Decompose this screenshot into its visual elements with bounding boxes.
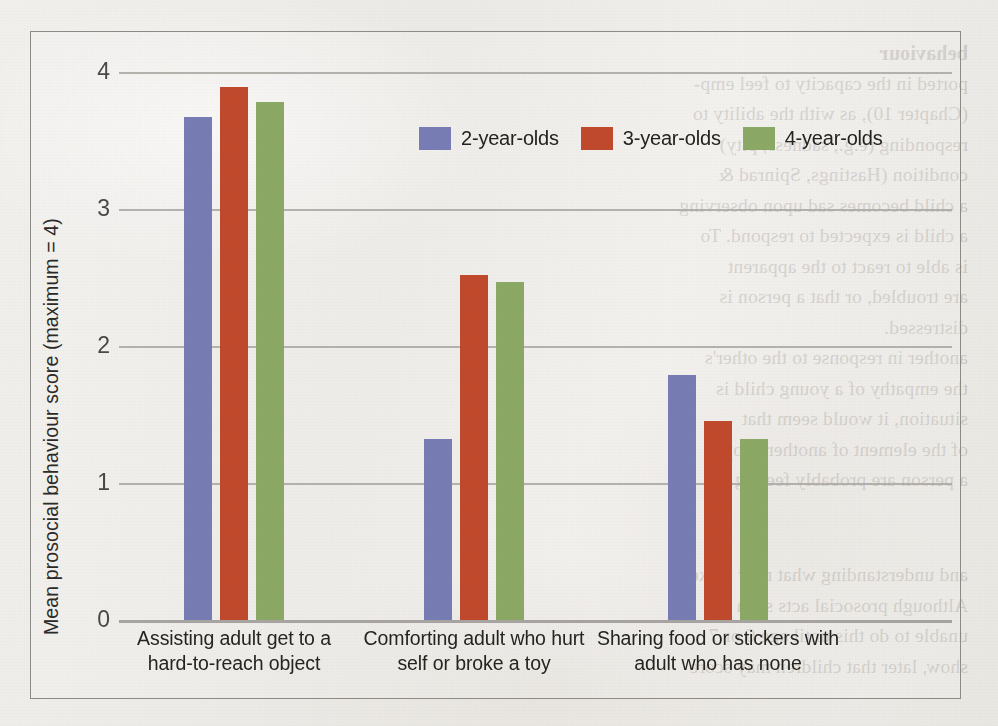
legend-label: 2-year-olds xyxy=(461,127,559,150)
category-label-line: Sharing food or stickers with xyxy=(543,626,893,651)
x-axis-baseline: 0 xyxy=(119,620,952,623)
y-tick-label-1: 1 xyxy=(97,471,110,494)
y-axis-title-wrapper: Mean prosocial behaviour score (maximum … xyxy=(46,535,47,536)
bar-4-year-olds xyxy=(256,102,284,620)
bar-3-year-olds xyxy=(220,87,248,620)
plot-area: 01234Assisting adult get to ahard-to-rea… xyxy=(119,72,952,620)
legend-label: 3-year-olds xyxy=(623,127,721,150)
y-tick-label-3: 3 xyxy=(97,197,110,220)
bar-group xyxy=(184,72,284,620)
bar-3-year-olds xyxy=(460,275,488,620)
legend-label: 4-year-olds xyxy=(785,127,883,150)
bar-group xyxy=(668,72,768,620)
category-label-line: adult who has none xyxy=(543,651,893,676)
bar-3-year-olds xyxy=(704,421,732,620)
x-axis-category-label: Sharing food or stickers withadult who h… xyxy=(543,626,893,676)
bar-group xyxy=(424,72,524,620)
legend-item-4-year-olds: 4-year-olds xyxy=(743,127,883,150)
y-tick-label-2: 2 xyxy=(97,334,110,357)
bar-2-year-olds xyxy=(424,439,452,620)
bar-4-year-olds xyxy=(496,282,524,620)
bar-4-year-olds xyxy=(740,439,768,620)
chart-legend: 2-year-olds3-year-olds4-year-olds xyxy=(419,127,905,150)
y-tick-label-4: 4 xyxy=(97,60,110,83)
legend-item-2-year-olds: 2-year-olds xyxy=(419,127,559,150)
legend-swatch-icon xyxy=(581,127,613,150)
legend-swatch-icon xyxy=(419,127,451,150)
y-axis-title: Mean prosocial behaviour score (maximum … xyxy=(40,115,63,635)
bar-2-year-olds xyxy=(668,375,696,620)
bar-2-year-olds xyxy=(184,117,212,620)
legend-swatch-icon xyxy=(743,127,775,150)
legend-item-3-year-olds: 3-year-olds xyxy=(581,127,721,150)
